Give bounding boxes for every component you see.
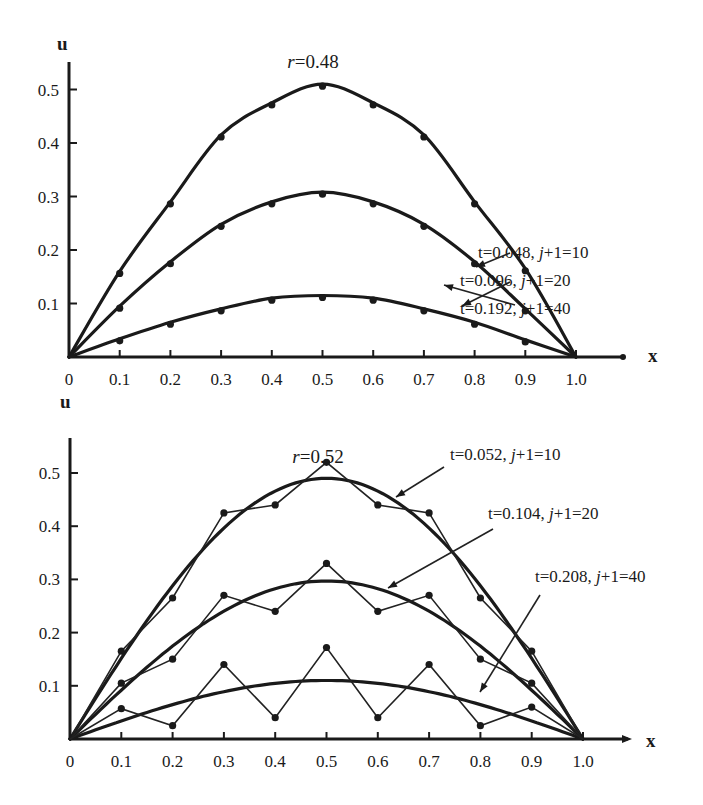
- y-tick-label: 0.4: [38, 134, 60, 153]
- x-tick-label: 0: [66, 752, 75, 771]
- x-tick-label: 0.9: [515, 370, 536, 389]
- data-point: [272, 714, 279, 721]
- y-axis-label: u: [60, 391, 71, 412]
- y-tick-label: 0.2: [38, 241, 59, 260]
- data-point: [420, 133, 427, 140]
- data-point: [528, 680, 535, 687]
- x-tick-label: 0.3: [210, 370, 231, 389]
- figure: 00.10.20.30.40.50.60.70.80.91.00.10.20.3…: [0, 0, 703, 805]
- data-point: [471, 260, 478, 267]
- series-annotation: t=0.208, j+1=40: [535, 567, 645, 586]
- data-point: [169, 656, 176, 663]
- x-axis-label: x: [648, 345, 658, 366]
- x-axis-arrow-icon: [622, 735, 632, 743]
- data-point: [116, 305, 123, 312]
- data-point: [220, 661, 227, 668]
- data-point: [118, 705, 125, 712]
- chart-title: r=0.48: [287, 51, 338, 72]
- y-tick-label: 0.2: [39, 624, 60, 643]
- data-point: [319, 294, 326, 301]
- data-point: [268, 101, 275, 108]
- arrowhead-icon: [444, 284, 454, 291]
- series-annotation: t=0.096, j+1=20: [460, 271, 570, 290]
- x-tick-label: 0.3: [213, 752, 234, 771]
- data-point: [118, 680, 125, 687]
- series-3: [70, 644, 583, 739]
- leader-arrow: [480, 595, 540, 692]
- exact-solution-curve: [70, 681, 583, 740]
- y-axis-label: u: [57, 33, 68, 54]
- y-tick-label: 0.5: [38, 81, 59, 100]
- data-point: [167, 200, 174, 207]
- series-annotation: t=0.192, j+1=40: [460, 299, 570, 318]
- x-tick-label: 0.6: [367, 752, 388, 771]
- data-point: [169, 594, 176, 601]
- data-point: [272, 501, 279, 508]
- x-tick-label: 0.7: [413, 370, 435, 389]
- data-point: [471, 200, 478, 207]
- data-point: [426, 509, 433, 516]
- data-point: [169, 722, 176, 729]
- x-tick-label: 0.1: [111, 752, 132, 771]
- data-point: [118, 648, 125, 655]
- x-tick-label: 0.7: [418, 752, 440, 771]
- x-tick-label: 0.6: [363, 370, 384, 389]
- x-tick-label: 0: [65, 370, 74, 389]
- data-point: [167, 260, 174, 267]
- x-tick-label: 0.2: [162, 752, 183, 771]
- y-tick-label: 0.1: [38, 295, 59, 314]
- chart-panel-2: 00.10.20.30.40.50.60.70.80.91.00.10.20.3…: [39, 391, 656, 771]
- data-point: [426, 661, 433, 668]
- data-point: [116, 270, 123, 277]
- data-point: [370, 297, 377, 304]
- y-tick-label: 0.3: [39, 570, 60, 589]
- data-point: [167, 321, 174, 328]
- arrowhead-icon: [480, 683, 488, 692]
- data-point: [323, 459, 330, 466]
- data-point: [528, 703, 535, 710]
- x-tick-label: 0.5: [316, 752, 337, 771]
- x-tick-label: 0.5: [312, 370, 333, 389]
- chart-title: r=0.52: [292, 446, 343, 467]
- data-point: [116, 337, 123, 344]
- x-tick-label: 0.8: [470, 752, 491, 771]
- data-point: [374, 714, 381, 721]
- x-tick-label: 0.4: [265, 752, 287, 771]
- data-point: [420, 307, 427, 314]
- x-tick-label: 0.8: [464, 370, 485, 389]
- x-tick-label: 0.1: [109, 370, 130, 389]
- data-point: [477, 594, 484, 601]
- data-point: [477, 656, 484, 663]
- x-tick-label: 0.9: [521, 752, 542, 771]
- arrowhead-icon: [388, 581, 398, 588]
- data-point: [370, 200, 377, 207]
- data-point: [220, 509, 227, 516]
- chart-panel-1: 00.10.20.30.40.50.60.70.80.91.00.10.20.3…: [38, 33, 658, 389]
- x-axis-end-icon: [620, 354, 626, 360]
- data-point: [374, 608, 381, 615]
- series-1: [70, 459, 583, 739]
- data-point: [268, 297, 275, 304]
- data-point: [319, 83, 326, 90]
- data-point: [323, 644, 330, 651]
- numeric-solution-line: [70, 647, 583, 739]
- series-annotation: t=0.052, j+1=10: [450, 445, 560, 464]
- x-tick-label: 0.4: [261, 370, 283, 389]
- data-point: [323, 560, 330, 567]
- data-point: [370, 101, 377, 108]
- data-point: [268, 200, 275, 207]
- x-tick-label: 1.0: [565, 370, 586, 389]
- data-point: [218, 223, 225, 230]
- y-tick-label: 0.3: [38, 188, 59, 207]
- y-tick-label: 0.1: [39, 677, 60, 696]
- x-tick-label: 1.0: [572, 752, 593, 771]
- series-annotation: t=0.104, j+1=20: [488, 504, 598, 523]
- y-tick-label: 0.4: [39, 517, 61, 536]
- data-point: [522, 338, 529, 345]
- data-point: [471, 321, 478, 328]
- exact-solution-curve: [70, 581, 583, 739]
- x-axis-label: x: [646, 730, 656, 751]
- data-point: [420, 223, 427, 230]
- data-point: [528, 648, 535, 655]
- data-point: [477, 722, 484, 729]
